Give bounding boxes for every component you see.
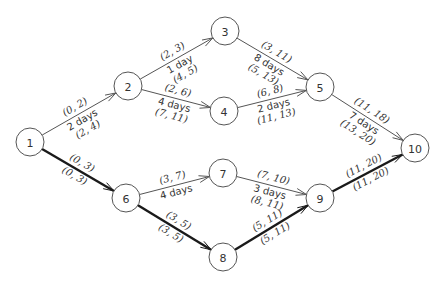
node-label: 9: [317, 193, 324, 206]
arrowhead-icon: [198, 176, 209, 177]
node-label: 2: [125, 81, 132, 94]
node-label: 6: [123, 193, 130, 206]
node-8: 8: [209, 243, 237, 271]
node-7: 7: [209, 159, 237, 187]
edge-labels-5-10: (11, 18)7 days(13, 20): [338, 95, 391, 148]
node-1: 1: [16, 128, 44, 156]
arrowhead-icon: [295, 90, 306, 91]
edge-labels-2-3: (2, 3)1 day(4, 5): [157, 39, 200, 85]
arrowhead-icon: [295, 195, 306, 196]
edge-labels-3-5: (3, 11)8 days(5, 13): [246, 38, 294, 87]
node-9: 9: [306, 184, 334, 212]
labels-layer: (0, 2)2 days(2, 4)(2, 3)1 day(4, 5)(2, 6…: [58, 38, 392, 246]
node-label: 8: [220, 252, 227, 265]
edges-layer: [42, 38, 403, 250]
edge-labels-1-2: (0, 2)2 days(2, 4): [58, 94, 105, 143]
node-10: 10: [401, 134, 429, 162]
node-3: 3: [211, 17, 239, 45]
arrowhead-icon: [199, 107, 210, 108]
node-2: 2: [114, 72, 142, 100]
node-6: 6: [112, 184, 140, 212]
node-5: 5: [306, 73, 334, 101]
edge-labels-6-7: (3, 7)4 days: [155, 168, 194, 201]
edge-labels-2-4: (2, 6)4 days(7, 11): [154, 81, 196, 125]
node-label: 7: [220, 168, 227, 181]
node-label: 3: [222, 26, 229, 39]
node-label: 1: [27, 137, 34, 150]
node-label: 4: [221, 106, 228, 119]
node-label: 10: [408, 143, 422, 156]
pert-network-diagram: (0, 2)2 days(2, 4)(2, 3)1 day(4, 5)(2, 6…: [0, 0, 442, 282]
duration-label: 4 days: [159, 182, 194, 201]
node-4: 4: [210, 97, 238, 125]
node-label: 5: [317, 82, 324, 95]
edge-labels-7-9: (7, 10)3 days(8, 11): [250, 168, 292, 212]
edge-labels-4-5: (6, 8)2 days(11, 13): [249, 81, 296, 127]
